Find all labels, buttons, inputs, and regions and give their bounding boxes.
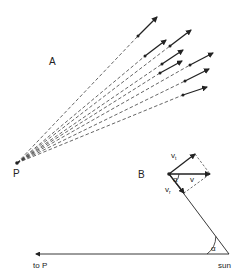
panel-label-b: B <box>138 169 145 180</box>
panel-b-vector-decomposition: B vt v vr α <box>138 151 210 195</box>
velocity-arrows <box>137 17 214 97</box>
meteor-dot <box>182 94 185 97</box>
meteor-dot <box>161 63 164 66</box>
dashed-trail-line <box>17 36 138 163</box>
vr-label: vr <box>165 185 171 195</box>
dashed-trail-line <box>17 64 162 163</box>
dashed-trail-line <box>17 65 190 163</box>
sun-label: sun <box>218 261 231 270</box>
meteor-dot <box>189 64 192 67</box>
panel-label-a: A <box>49 56 56 67</box>
velocity-arrow <box>190 53 213 65</box>
v-label: v <box>190 175 194 184</box>
velocity-arrow <box>183 87 207 95</box>
dashed-projection-vt-to-v <box>195 154 210 174</box>
dashed-trail-line <box>17 95 183 163</box>
dashed-trail-line <box>17 46 170 163</box>
to-p-label: to P <box>33 261 47 270</box>
heliocentric-velocity-diagram: P A B vt v vr α α sun to P <box>0 0 250 280</box>
meteor-dot <box>169 45 172 48</box>
velocity-arrow <box>185 69 209 81</box>
panel-a-meteor-radiant: P A <box>13 17 213 179</box>
dashed-trail-line <box>17 81 185 163</box>
vt-label: vt <box>171 151 177 161</box>
alpha-label-sun: α <box>211 244 216 253</box>
dashed-projection-v-to-vr <box>184 174 210 193</box>
velocity-arrow <box>170 30 191 46</box>
sun-to-meteor-line <box>169 174 229 254</box>
sun-direction-group: α sun to P <box>33 174 231 270</box>
velocity-arrow <box>138 17 157 36</box>
dashed-trail-lines <box>17 36 190 163</box>
radiant-point-p <box>15 161 19 165</box>
meteor-dot <box>144 55 147 58</box>
dashed-trail-line <box>17 73 160 163</box>
meteor-dot <box>159 72 162 75</box>
velocity-arrow <box>145 40 166 56</box>
radiant-label-p: P <box>13 168 20 179</box>
meteor-dot <box>184 80 187 83</box>
meteor-dot <box>137 35 140 38</box>
